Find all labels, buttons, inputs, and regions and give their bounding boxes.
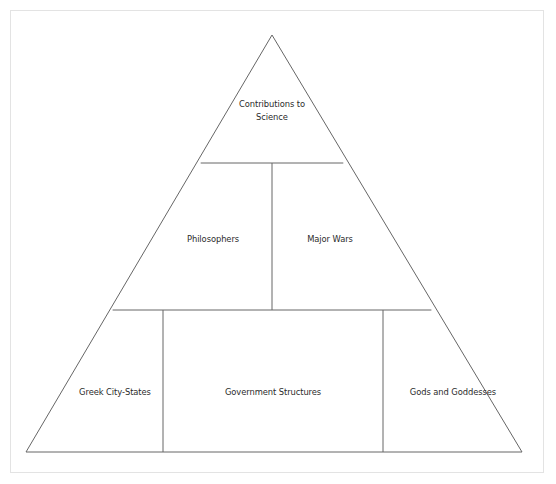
triangle-outline [26, 35, 522, 452]
pyramid-diagram [0, 0, 556, 484]
page-root: Contributions to Science Philosophers Ma… [0, 0, 556, 484]
